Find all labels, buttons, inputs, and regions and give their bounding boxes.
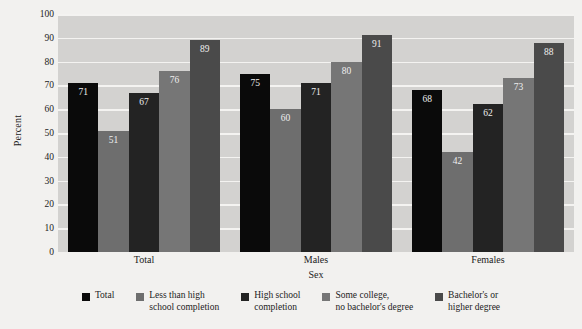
y-axis-tick-label: 30 <box>45 176 55 186</box>
x-axis-group-label: Males <box>230 254 402 270</box>
bar-value-label: 80 <box>342 66 352 76</box>
chart-legend: TotalLess than high school completionHig… <box>0 290 582 313</box>
legend-item[interactable]: Total <box>82 290 114 313</box>
y-axis-tick-label: 40 <box>45 152 55 162</box>
bar[interactable]: 75 <box>240 74 270 253</box>
y-axis-tick-label: 50 <box>45 128 55 138</box>
legend-swatch-icon <box>82 293 90 301</box>
y-axis-tick-label: 70 <box>45 80 55 90</box>
y-axis-tick-label: 20 <box>45 199 55 209</box>
bar-value-label: 42 <box>453 156 463 166</box>
bar[interactable]: 68 <box>412 90 442 252</box>
legend-label: Less than high school completion <box>149 290 219 313</box>
chart-figure: Percent 1009080706050403020100 715167768… <box>0 0 582 329</box>
bar-value-label: 68 <box>422 94 432 104</box>
y-axis-tick-label: 80 <box>45 57 55 67</box>
y-axis-tick-label: 0 <box>49 247 54 257</box>
bar[interactable]: 60 <box>270 109 300 252</box>
legend-label: Bachelor's or higher degree <box>448 290 500 313</box>
bar[interactable]: 62 <box>473 104 503 252</box>
bar[interactable]: 76 <box>159 71 189 252</box>
bar-group-total: 7151677689 <box>58 14 230 252</box>
bar-group-females: 6842627388 <box>402 14 574 252</box>
bar-value-label: 60 <box>281 113 291 123</box>
bar-value-label: 71 <box>311 87 321 97</box>
bar[interactable]: 91 <box>362 35 392 252</box>
x-axis-title: Sex <box>58 269 574 280</box>
bar-value-label: 89 <box>200 44 210 54</box>
x-axis-group-labels: TotalMalesFemales <box>58 254 574 270</box>
bar-value-label: 67 <box>139 97 149 107</box>
legend-swatch-icon <box>322 293 330 301</box>
legend-item[interactable]: Some college, no bachelor's degree <box>322 290 413 313</box>
bar[interactable]: 42 <box>442 152 472 252</box>
y-axis-tick-label: 90 <box>45 33 55 43</box>
bar[interactable]: 71 <box>301 83 331 252</box>
y-axis-label: Percent <box>8 0 28 260</box>
bar[interactable]: 51 <box>98 131 128 252</box>
legend-swatch-icon <box>435 293 443 301</box>
legend-item[interactable]: Less than high school completion <box>136 290 219 313</box>
y-axis-ticks: 1009080706050403020100 <box>26 14 54 252</box>
legend-swatch-icon <box>241 293 249 301</box>
y-axis-tick-label: 60 <box>45 104 55 114</box>
bar-value-label: 51 <box>109 135 119 145</box>
bar-value-label: 62 <box>483 108 493 118</box>
bar[interactable]: 89 <box>190 40 220 252</box>
legend-label: Total <box>95 290 114 302</box>
bar-value-label: 91 <box>372 39 382 49</box>
bar-groups: 715167768975607180916842627388 <box>58 14 574 252</box>
bar-value-label: 76 <box>170 75 180 85</box>
bar[interactable]: 71 <box>68 83 98 252</box>
legend-swatch-icon <box>136 293 144 301</box>
x-axis-group-label: Females <box>402 254 574 270</box>
bar-value-label: 88 <box>544 47 554 57</box>
bar[interactable]: 67 <box>129 93 159 252</box>
bar[interactable]: 73 <box>503 78 533 252</box>
bar-value-label: 73 <box>514 82 524 92</box>
legend-label: High school completion <box>254 290 300 313</box>
legend-item[interactable]: Bachelor's or higher degree <box>435 290 500 313</box>
legend-item[interactable]: High school completion <box>241 290 300 313</box>
plot-area: 715167768975607180916842627388 <box>58 14 574 252</box>
bar[interactable]: 88 <box>534 43 564 252</box>
bar-group-males: 7560718091 <box>230 14 402 252</box>
y-axis-tick-label: 100 <box>40 9 54 19</box>
bar[interactable]: 80 <box>331 62 361 252</box>
legend-label: Some college, no bachelor's degree <box>335 290 413 313</box>
bar-value-label: 75 <box>250 78 260 88</box>
y-axis-tick-label: 10 <box>45 223 55 233</box>
x-axis-group-label: Total <box>58 254 230 270</box>
y-axis-label-text: Percent <box>13 114 24 145</box>
bar-value-label: 71 <box>78 87 88 97</box>
